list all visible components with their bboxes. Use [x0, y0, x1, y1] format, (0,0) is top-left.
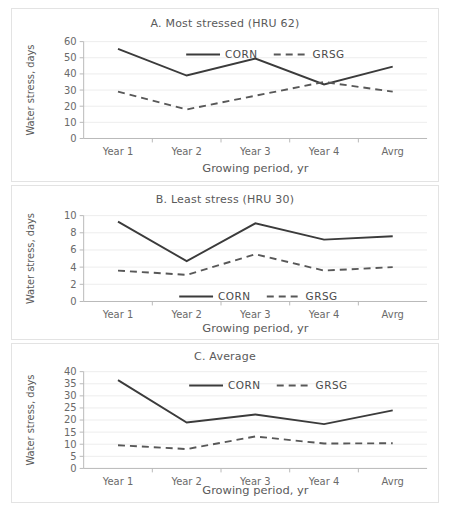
y-axis-tick-label: 25 — [64, 402, 77, 413]
x-axis-tick-label: Year 4 — [308, 146, 340, 157]
y-axis-tick-label: 6 — [70, 244, 76, 255]
y-axis-tick-label: 4 — [70, 262, 76, 273]
x-axis-tick-label: Year 2 — [170, 146, 202, 157]
y-axis-title: Water stress, days — [25, 374, 36, 465]
x-axis-title: Growing period, yr — [202, 161, 308, 175]
series-line-grsg — [118, 254, 393, 275]
legend-label-corn: CORN — [218, 291, 251, 303]
x-axis-title: Growing period, yr — [202, 483, 308, 497]
y-axis-title: Water stress, days — [25, 44, 36, 135]
x-axis-tick-label: Year 1 — [102, 476, 134, 487]
legend-label-corn: CORN — [225, 48, 258, 60]
legend-label-grsg: GRSG — [313, 48, 345, 60]
x-axis-tick-label: Avrg — [382, 476, 404, 487]
chart-b-plot: 0246810Year 1Year 2Year 3Year 4AvrgWater… — [12, 186, 438, 339]
legend-label-grsg: GRSG — [306, 291, 338, 303]
y-axis-tick-label: 8 — [70, 227, 76, 238]
y-axis-tick-label: 20 — [64, 415, 77, 426]
x-axis-tick-label: Year 4 — [308, 309, 340, 320]
series-line-grsg — [118, 82, 393, 109]
chart-panel-b: B. Least stress (HRU 30) 0246810Year 1Ye… — [11, 185, 439, 340]
chart-panel-a: A. Most stressed (HRU 62) 0102030405060Y… — [11, 8, 439, 182]
series-line-grsg — [118, 436, 393, 449]
y-axis-tick-label: 15 — [64, 427, 77, 438]
y-axis-tick-label: 2 — [70, 279, 76, 290]
y-axis-tick-label: 30 — [64, 85, 77, 96]
y-axis-tick-label: 40 — [64, 366, 77, 377]
y-axis-tick-label: 50 — [64, 52, 77, 63]
y-axis-tick-label: 35 — [64, 378, 77, 389]
y-axis-tick-label: 0 — [70, 296, 76, 307]
x-axis-tick-label: Year 1 — [102, 309, 134, 320]
y-axis-tick-label: 0 — [70, 133, 76, 144]
x-axis-title: Growing period, yr — [202, 321, 308, 335]
x-axis-tick-label: Year 3 — [239, 146, 271, 157]
y-axis-tick-label: 60 — [64, 36, 77, 47]
y-axis-tick-label: 10 — [64, 117, 77, 128]
y-axis-title: Water stress, days — [25, 213, 36, 304]
x-axis-tick-label: Avrg — [382, 309, 404, 320]
legend-label-corn: CORN — [228, 379, 261, 391]
x-axis-tick-label: Year 1 — [102, 146, 134, 157]
y-axis-tick-label: 20 — [64, 101, 77, 112]
x-axis-tick-label: Year 3 — [239, 309, 271, 320]
water-stress-figure: A. Most stressed (HRU 62) 0102030405060Y… — [0, 0, 452, 513]
series-line-corn — [118, 222, 393, 262]
chart-c-plot: 0510152025303540Year 1Year 2Year 3Year 4… — [12, 344, 438, 502]
y-axis-tick-label: 0 — [70, 463, 76, 474]
y-axis-tick-label: 5 — [70, 451, 76, 462]
x-axis-tick-label: Year 2 — [170, 476, 202, 487]
legend-label-grsg: GRSG — [316, 379, 348, 391]
x-axis-tick-label: Year 2 — [170, 309, 202, 320]
x-axis-tick-label: Avrg — [382, 146, 404, 157]
y-axis-tick-label: 30 — [64, 390, 77, 401]
y-axis-tick-label: 10 — [64, 210, 77, 221]
chart-panel-c: C. Average 0510152025303540Year 1Year 2Y… — [11, 343, 439, 503]
y-axis-tick-label: 40 — [64, 68, 77, 79]
y-axis-tick-label: 10 — [64, 439, 77, 450]
x-axis-tick-label: Year 4 — [308, 476, 340, 487]
chart-a-plot: 0102030405060Year 1Year 2Year 3Year 4Avr… — [12, 9, 438, 181]
